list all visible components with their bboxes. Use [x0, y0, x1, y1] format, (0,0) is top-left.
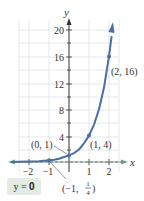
- asymptote-label: y = 0: [7, 178, 41, 195]
- x-tick-neg2: −2: [23, 166, 34, 177]
- y-tick-12: 12: [54, 79, 64, 90]
- x-tick-neg1: −1: [43, 166, 54, 177]
- y-axis: y 20 16 12 8 4: [54, 6, 72, 172]
- svg-text:1: 1: [86, 180, 90, 188]
- y-tick-4: 4: [59, 132, 64, 143]
- x-axis: x −2 −1 1 2: [8, 156, 135, 177]
- label-point-2-16: (2, 16): [111, 66, 138, 78]
- y-tick-8: 8: [59, 105, 64, 116]
- asymptote-value: 0: [29, 181, 35, 192]
- svg-text:): ): [92, 183, 95, 195]
- svg-text:(−1,: (−1,: [62, 183, 78, 195]
- x-tick-2: 2: [107, 166, 112, 177]
- point-neg1: [47, 158, 51, 162]
- asymptote-var: y =: [13, 181, 29, 192]
- x-axis-label: x: [129, 156, 135, 168]
- svg-text:4: 4: [86, 189, 90, 197]
- label-point-1-4: (1, 4): [90, 139, 112, 151]
- x-tick-1: 1: [87, 166, 92, 177]
- point-1: [87, 134, 91, 138]
- asymptote-label-box: y = 0: [7, 178, 41, 195]
- exponential-chart: y 20 16 12 8 4 x −2 −1 1 2 (: [0, 0, 144, 201]
- y-axis-label: y: [63, 6, 69, 18]
- label-point-neg1: (−1, 1 4 ): [62, 180, 95, 197]
- point-2: [107, 54, 111, 58]
- y-tick-20: 20: [54, 25, 64, 36]
- point-0: [67, 153, 71, 157]
- label-point-0-1: (0, 1): [31, 139, 53, 151]
- y-tick-16: 16: [54, 52, 64, 63]
